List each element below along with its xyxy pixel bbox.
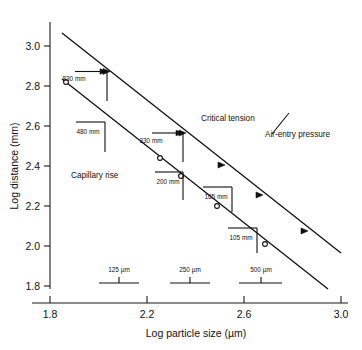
annotation-label: 830 mm (62, 75, 85, 82)
annotation-105mm: 105 mm (228, 228, 257, 253)
annotation-label: 330 mm (139, 137, 162, 144)
y-tick-label: 2.6 (25, 120, 40, 132)
series-label-critical-tension: Critical tension (201, 114, 255, 123)
x-tick-label: 1.8 (43, 308, 58, 320)
series-capillary-rise (62, 79, 328, 289)
size-bar-label: 125 µm (108, 266, 129, 274)
data-point-marker (158, 156, 163, 161)
data-point-marker (215, 204, 220, 209)
size-bar-125um: 125 µm (99, 266, 139, 283)
chart-svg: 1.8 2.0 2.2 2.4 2.6 2.8 3.0 1.8 2.2 2.6 … (0, 0, 362, 350)
annotation-480mm: 480 mm (76, 122, 105, 152)
series-label-capillary-rise: Capillary rise (71, 171, 119, 180)
x-axis-ticks: 1.8 2.2 2.6 3.0 (43, 296, 349, 320)
y-axis-title: Log distance (mm) (8, 123, 20, 210)
size-bar-500um: 500 µm (239, 266, 282, 283)
y-tick-label: 2.2 (25, 200, 40, 212)
x-tick-label: 2.6 (237, 308, 252, 320)
y-tick-label: 3.0 (25, 40, 40, 52)
data-point-marker (218, 162, 225, 168)
y-tick-label: 1.8 (25, 280, 40, 292)
size-bar-label: 250 µm (179, 266, 200, 274)
y-axis-ticks: 1.8 2.0 2.2 2.4 2.6 2.8 3.0 (25, 40, 50, 292)
annotation-label: 480 mm (76, 128, 99, 135)
series-line-upper (62, 33, 341, 253)
y-tick-label: 2.0 (25, 240, 40, 252)
x-axis-title: Log particle size (µm) (146, 327, 247, 339)
data-point-marker (256, 192, 263, 198)
annotation-label: 200 mm (156, 178, 179, 185)
y-tick-label: 2.8 (25, 80, 40, 92)
y-tick-label: 2.4 (25, 160, 40, 172)
size-bar-label: 500 µm (250, 266, 271, 274)
x-tick-label: 2.2 (140, 308, 155, 320)
series-critical-tension (62, 33, 341, 253)
series-line-lower (62, 79, 328, 289)
data-point-marker (263, 242, 268, 247)
axes-group (32, 22, 348, 303)
x-tick-label: 3.0 (334, 308, 349, 320)
annotation-label: 105 mm (229, 234, 252, 241)
series-label-air-entry-pressure: Air-entry pressure (265, 130, 331, 139)
data-point-marker (301, 228, 308, 234)
size-bar-250um: 250 µm (170, 266, 210, 283)
chart-figure: 1.8 2.0 2.2 2.4 2.6 2.8 3.0 1.8 2.2 2.6 … (0, 0, 362, 350)
annotation-label: 165 mm (204, 193, 227, 200)
